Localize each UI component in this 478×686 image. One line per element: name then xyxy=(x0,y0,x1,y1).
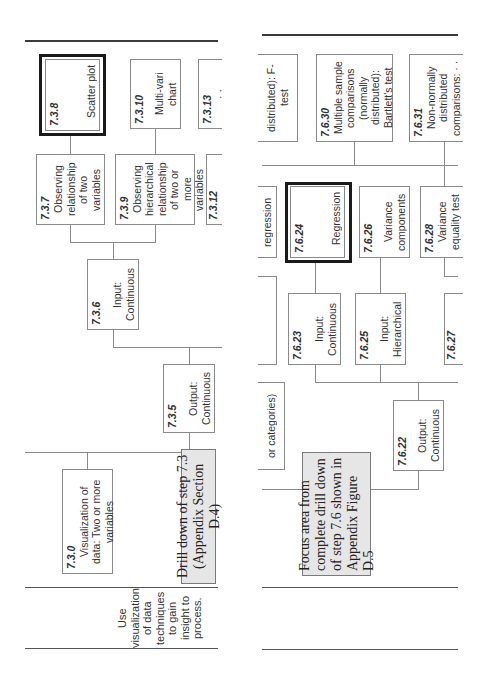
connector xyxy=(113,347,222,348)
node-number: 7.6.27 xyxy=(445,331,463,360)
connector xyxy=(189,347,190,364)
connector xyxy=(380,258,381,293)
node-text: Input: Continuous xyxy=(313,298,338,360)
node-7-3-0-visualization-of-data[interactable]: 7.3.0 Visualization of data: Two or more… xyxy=(62,469,113,574)
node-text: Scatter plot xyxy=(85,64,98,117)
node-number: 7.6.28 xyxy=(423,224,436,253)
node-regression-partial[interactable]: regression xyxy=(258,186,277,258)
top-rule-right xyxy=(262,34,458,36)
node-number: 7.6.22 xyxy=(396,437,416,466)
node-text: Visualization of data: Two or more varia… xyxy=(78,474,116,569)
top-rule-left xyxy=(25,40,218,42)
node-partial-left xyxy=(258,276,277,365)
node-7-6-27[interactable]: 7.6.27 xyxy=(444,293,463,365)
step-description: Use visualization of data techniques to … xyxy=(125,590,195,646)
connector xyxy=(25,452,181,453)
node-text: Input: Continuous xyxy=(111,264,136,325)
connector xyxy=(444,258,445,276)
node-7-3-13[interactable]: 7.3.13 · · xyxy=(198,59,222,129)
node-7-6-24-regression[interactable]: 7.6.24 Regression xyxy=(285,182,352,263)
node-7-6-23-input-continuous[interactable]: 7.6.23 Input: Continuous xyxy=(288,293,341,365)
node-7-3-8-scatter-plot[interactable]: 7.3.8 Scatter plot xyxy=(39,54,106,136)
node-7-3-5-output-continuous[interactable]: 7.3.5 Output: Continuous xyxy=(163,364,215,433)
focus-area-note: Focus area from complete drill down of s… xyxy=(302,452,371,576)
node-number: 7.6.31 xyxy=(412,108,425,137)
connector xyxy=(371,489,419,490)
node-text: Variance equality test xyxy=(436,191,461,253)
node-7-3-9-observing-hierarchical[interactable]: 7.3.9 Observing hierarchical relationshi… xyxy=(115,154,195,225)
node-text: regression xyxy=(261,197,274,246)
rule-right-mid xyxy=(262,587,458,588)
connector xyxy=(189,433,190,449)
node-number: 7.6.25 xyxy=(358,331,378,360)
connector xyxy=(113,242,114,259)
node-7-3-6-input-continuous[interactable]: 7.3.6 Input: Continuous xyxy=(87,259,139,330)
node-f-test[interactable]: distributed): F-test xyxy=(258,54,298,142)
connector xyxy=(315,263,316,293)
step-description-text: Use visualization of data techniques to … xyxy=(116,588,204,648)
connector xyxy=(354,142,355,165)
connector xyxy=(155,225,156,242)
node-text: Multiple sample comparisons (normally di… xyxy=(332,59,395,137)
node-7-6-22-output-continuous[interactable]: 7.6.22 Output: Continuous xyxy=(393,400,444,471)
node-number: 7.6.30 xyxy=(319,108,332,137)
connector xyxy=(315,365,316,382)
node-number: 7.6.24 xyxy=(293,224,330,253)
node-number: 7.3.5 xyxy=(166,405,187,428)
node-number: 7.3.12 xyxy=(207,191,222,220)
connector xyxy=(315,382,458,383)
rule-left-bottom xyxy=(25,648,218,649)
node-number: 7.3.13 xyxy=(201,95,214,124)
node-text: Non-normally distributed comparisons: · … xyxy=(425,59,463,137)
connector xyxy=(155,129,156,154)
node-7-6-26-variance-components[interactable]: 7.6.26 Variance components xyxy=(359,186,410,258)
node-text: distributed): F-test xyxy=(265,59,290,137)
node-7-3-12[interactable]: 7.3.12 xyxy=(206,154,222,225)
node-7-6-28-variance-equality-test[interactable]: 7.6.28 Variance equality test xyxy=(420,186,463,258)
node-text: Observing hierarchical relationship of t… xyxy=(131,159,206,220)
node-text: · · xyxy=(214,89,227,99)
node-7-6-30-bartletts-test[interactable]: 7.6.30 Multiple sample comparisons (norm… xyxy=(316,54,393,142)
node-number: 7.6.26 xyxy=(362,224,382,253)
drill-down-text: Drill down of step 7.3 (Appendix Section… xyxy=(175,452,223,581)
connector xyxy=(113,330,114,347)
node-text: Output: Continuous xyxy=(416,405,441,466)
node-number: 7.3.9 xyxy=(118,197,131,220)
node-text: Output: Continuous xyxy=(187,369,212,428)
connector xyxy=(418,382,419,400)
node-text: Multi-vari chart xyxy=(153,64,178,124)
node-number: 7.3.6 xyxy=(90,302,111,325)
node-text: Input: Hierarchical xyxy=(378,298,403,360)
connector xyxy=(418,471,419,489)
node-7-3-10-multi-vari-chart[interactable]: 7.3.10 Multi-vari chart xyxy=(130,59,181,129)
node-number: 7.6.23 xyxy=(291,331,313,360)
node-7-6-31-non-normally-distributed[interactable]: 7.6.31 Non-normally distributed comparis… xyxy=(409,54,463,142)
node-text: Observing relationship of two variables xyxy=(52,159,102,220)
node-text: Variance components xyxy=(382,191,407,253)
drill-down-note: Drill down of step 7.3 (Appendix Section… xyxy=(181,449,216,584)
node-7-6-25-input-hierarchical[interactable]: 7.6.25 Input: Hierarchical xyxy=(355,293,406,365)
node-text: or categories) xyxy=(265,394,278,458)
focus-area-text: Focus area from complete drill down of s… xyxy=(297,457,377,571)
node-number: 7.3.7 xyxy=(39,197,52,220)
node-number: 7.3.10 xyxy=(133,95,153,124)
connector xyxy=(87,452,88,469)
node-number: 7.3.8 xyxy=(48,103,85,126)
rule-right-bottom xyxy=(262,649,458,650)
connector xyxy=(262,165,458,166)
node-text: Regression xyxy=(330,191,343,244)
node-7-3-7-observing-relationship[interactable]: 7.3.7 Observing relationship of two vari… xyxy=(36,154,105,225)
connector xyxy=(444,142,445,186)
connector xyxy=(70,136,71,154)
node-number: 7.3.0 xyxy=(65,546,78,569)
connector xyxy=(444,276,458,277)
connector xyxy=(70,225,71,242)
connector xyxy=(380,365,381,382)
node-categories-partial[interactable]: or categories) xyxy=(258,382,285,470)
